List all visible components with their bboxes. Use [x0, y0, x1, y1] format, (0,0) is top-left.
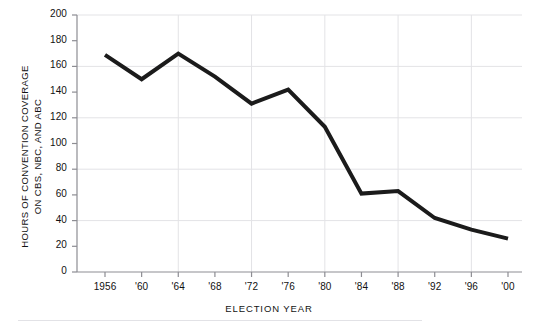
- x-tick-label: '84: [344, 281, 378, 292]
- y-tick-label: 180: [39, 34, 67, 45]
- x-tick-label: '80: [308, 281, 342, 292]
- x-tick-label: '92: [418, 281, 452, 292]
- x-axis-title: ELECTION YEAR: [0, 303, 538, 314]
- y-tick-label: 160: [39, 59, 67, 70]
- y-tick-label: 140: [39, 85, 67, 96]
- y-tick-label: 20: [39, 239, 67, 250]
- x-tick-label: '72: [235, 281, 269, 292]
- series-line: [105, 54, 508, 239]
- axis-lines: [77, 15, 522, 272]
- y-tick-label: 60: [39, 188, 67, 199]
- y-tick-label: 100: [39, 137, 67, 148]
- plot-area: [0, 0, 538, 325]
- chart-figure: HOURS OF CONVENTION COVERAGE ON CBS, NBC…: [0, 0, 538, 325]
- x-tick-label: '68: [198, 281, 232, 292]
- x-tick-label: '76: [271, 281, 305, 292]
- gridlines: [77, 15, 522, 272]
- y-tick-label: 40: [39, 214, 67, 225]
- x-tick-label: '88: [381, 281, 415, 292]
- data-series: [105, 54, 508, 239]
- y-tick-label: 0: [39, 265, 67, 276]
- x-tick-label: 1956: [88, 281, 122, 292]
- y-tick-label: 120: [39, 111, 67, 122]
- x-tick-label: '96: [454, 281, 488, 292]
- page-divider-rule: [18, 320, 422, 321]
- tick-marks: [72, 15, 508, 277]
- x-tick-label: '00: [491, 281, 525, 292]
- x-tick-label: '64: [161, 281, 195, 292]
- x-tick-label: '60: [125, 281, 159, 292]
- y-tick-label: 200: [39, 8, 67, 19]
- y-tick-label: 80: [39, 162, 67, 173]
